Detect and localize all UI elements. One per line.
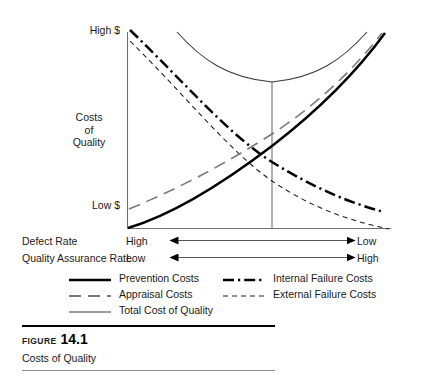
legend-label-prevention-costs: Prevention Costs (119, 272, 199, 284)
defect-rate-right-value: Low (348, 235, 376, 247)
defect-rate-label: Defect Rate (0, 235, 126, 247)
defect-rate-axis-row: Defect Rate High Low (0, 232, 429, 249)
legend-swatch-appraisal-costs (68, 288, 112, 300)
figure-number: 14.1 (61, 331, 88, 347)
legend-swatch-external-failure-costs (222, 288, 266, 300)
quality-assurance-rate-right-value: High (348, 252, 379, 264)
legend-swatch-total-cost-of-quality (68, 304, 112, 316)
quality-assurance-rate-axis-row: Quality Assurance Rate Low High (0, 249, 429, 266)
legend-item-total-cost-of-quality: Total Cost of Quality (68, 302, 213, 317)
legend-item-internal-failure-costs: Internal Failure Costs (222, 270, 373, 285)
figure-costs-of-quality: High $ CostsofQuality Low $ Defect Rate … (0, 0, 429, 375)
legend-label-internal-failure-costs: Internal Failure Costs (273, 272, 373, 284)
defect-rate-left-value: High (126, 235, 170, 247)
legend-label-external-failure-costs: External Failure Costs (273, 288, 376, 300)
caption-bottom-rule (22, 370, 275, 371)
quality-assurance-rate-label: Quality Assurance Rate (0, 252, 126, 264)
legend-label-total-cost-of-quality: Total Cost of Quality (119, 304, 213, 316)
chart-legend: Prevention Costs Appraisal Costs Total C… (0, 270, 429, 318)
series-line-total-cost-of-quality (177, 32, 367, 82)
figure-word: FIGURE (22, 336, 57, 346)
y-axis-title-line-3: Quality (73, 136, 106, 148)
quality-assurance-rate-left-value: Low (126, 252, 170, 264)
legend-item-external-failure-costs: External Failure Costs (222, 286, 376, 301)
y-axis-title-line-2: of (85, 124, 94, 136)
caption-top-rule (22, 325, 275, 327)
legend-item-appraisal-costs: Appraisal Costs (68, 286, 193, 301)
figure-caption-heading: FIGURE 14.1 (22, 331, 322, 347)
legend-swatch-internal-failure-costs (222, 272, 266, 284)
legend-label-appraisal-costs: Appraisal Costs (119, 288, 193, 300)
y-axis-title: CostsofQuality (58, 111, 120, 149)
legend-item-prevention-costs: Prevention Costs (68, 270, 199, 285)
quality-assurance-rate-arrow-spacer (170, 252, 348, 264)
y-axis-high-label: High $ (58, 24, 120, 37)
y-axis-title-line-1: Costs (76, 111, 103, 123)
figure-caption-subtitle: Costs of Quality (22, 352, 322, 364)
series-line-appraisal-costs (129, 33, 382, 209)
defect-rate-arrow-spacer (170, 235, 348, 247)
y-axis-low-label: Low $ (58, 199, 120, 212)
series-line-internal-failure-costs (130, 30, 384, 212)
legend-swatch-prevention-costs (68, 272, 112, 284)
